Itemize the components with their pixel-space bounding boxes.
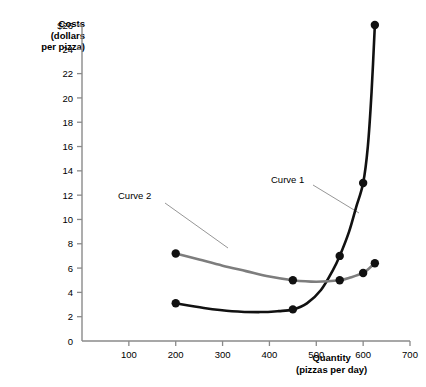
x-tick-label: 300	[215, 349, 231, 360]
y-tick-label: 12	[62, 190, 73, 201]
data-point-marker	[336, 252, 344, 260]
y-tick-label: 4	[68, 287, 73, 298]
plot-area: 024681012141618202224$26 100200300400500…	[0, 0, 426, 387]
data-point-marker	[336, 276, 344, 284]
data-point-marker	[172, 299, 180, 307]
data-point-marker	[359, 179, 367, 187]
data-point-marker	[359, 269, 367, 277]
x-tick-label: 100	[121, 349, 137, 360]
y-tick-label: 8	[68, 238, 73, 249]
cost-curves-chart: Costs (dollars per pizza) Quantity (pizz…	[0, 0, 426, 387]
data-point-marker	[371, 21, 379, 29]
series-paths	[176, 25, 375, 312]
data-point-marker	[371, 259, 379, 267]
y-tick-label: 10	[62, 214, 73, 225]
x-tick-label: 700	[402, 349, 418, 360]
y-tick-label: 6	[68, 263, 73, 274]
y-tick-label: 16	[62, 141, 73, 152]
series-line-2	[176, 253, 375, 281]
y-tick-label: 0	[68, 336, 73, 347]
curve-1-callout-leader	[313, 185, 359, 213]
x-tick-label: 200	[168, 349, 184, 360]
y-tick-label: 14	[62, 165, 73, 176]
y-tick-label: 2	[68, 311, 73, 322]
y-tick-label: 24	[62, 44, 73, 55]
x-tick-label: 400	[261, 349, 277, 360]
y-tick-label: $26	[57, 20, 73, 31]
data-point-marker	[289, 276, 297, 284]
y-tick-label: 18	[62, 117, 73, 128]
series-markers	[172, 21, 380, 314]
y-tick-label: 22	[62, 68, 73, 79]
data-point-marker	[172, 249, 180, 257]
y-tick-label-group: 024681012141618202224$26	[57, 20, 73, 347]
annotation-leader-lines	[165, 185, 359, 248]
y-tick-label: 20	[62, 93, 73, 104]
x-tick-label: 600	[355, 349, 371, 360]
series-line-1	[176, 25, 375, 312]
x-tick-label-group: 100200300400500600700	[121, 349, 418, 360]
curve-2-callout-leader	[165, 203, 228, 248]
x-tick-label: 500	[308, 349, 324, 360]
data-point-marker	[289, 305, 297, 313]
